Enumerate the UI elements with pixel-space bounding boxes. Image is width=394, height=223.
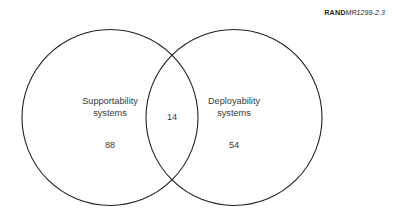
venn-count-deployability: 54 bbox=[154, 140, 314, 152]
venn-label-deployability-line1: Deployability bbox=[154, 96, 314, 108]
venn-figure: RANDMR1299-2.3 Supportability systems 88… bbox=[0, 0, 394, 223]
venn-count-intersection: 14 bbox=[147, 112, 197, 124]
